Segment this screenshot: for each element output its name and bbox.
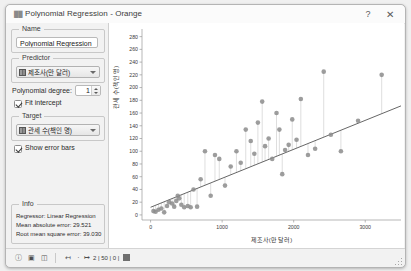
input-icon[interactable]: ↤ [63,253,72,263]
help-button[interactable]: ? [361,8,375,21]
svg-text:280: 280 [129,34,138,40]
close-button[interactable]: ✕ [383,8,397,21]
info-box: Info Regressor: Linear Regression Mean a… [11,204,105,244]
x-axis-title: 제조사(만 달러) [202,235,342,244]
svg-text:220: 220 [129,72,138,78]
svg-text:60: 60 [132,174,138,180]
control-panel: Name Polynomial Regression Predictor 제조사… [6,23,109,248]
screenshot-root: ██ Polynomial Regression - Orange ? ✕ Na… [0,0,411,271]
orange-widget-icon: ██ [14,10,22,18]
status-square-icon [123,254,130,261]
target-box: Target 관세 수(책인 명) [11,116,105,141]
predictor-box-label: Predictor [19,54,53,61]
svg-text:80: 80 [132,161,138,167]
name-box: Name Polynomial Regression [11,29,105,53]
status-bar: ⓘ ▣ ◫ ↤ · ↦ 2 | 50 | 0 | [6,248,405,267]
info-box-label: Info [19,200,37,207]
target-combo[interactable]: 관세 수(책인 명) [16,124,100,136]
output-icon[interactable]: ↦ [82,253,91,263]
svg-text:260: 260 [129,46,138,52]
stepper-down-icon [94,92,98,94]
svg-text:100: 100 [129,148,138,154]
name-box-label: Name [19,25,44,32]
stepper-up-icon [94,88,98,90]
divider [55,253,56,263]
plot-canvas: 0204060801001201401601802002202402602800… [109,23,404,248]
svg-text:20: 20 [132,199,138,205]
resize-grip[interactable] [393,256,402,265]
chevron-down-icon [90,129,96,132]
status-counts: 2 | 50 | 0 | [93,253,119,263]
scatter-plot[interactable]: 관세 수(책인 명) 02040608010012014016018020022… [109,23,404,248]
svg-text:0: 0 [135,212,138,218]
checkbox-icon [14,145,22,153]
fit-intercept-label: Fit intercept [25,99,62,106]
svg-text:200: 200 [129,84,138,90]
predictor-value: 제조사(만 달러) [28,68,88,78]
svg-text:180: 180 [129,97,138,103]
target-value: 관세 수(책인 명) [28,126,88,136]
svg-text:2000: 2000 [288,224,300,230]
title-bar: ██ Polynomial Regression - Orange ? ✕ [6,5,405,24]
name-input[interactable]: Polynomial Regression [16,37,98,48]
checkbox-icon [14,100,22,108]
variable-type-icon [19,127,26,134]
info-rmse: Root mean square error: 39.030 [16,231,101,237]
svg-text:1000: 1000 [216,224,228,230]
svg-text:3000: 3000 [359,224,371,230]
svg-text:40: 40 [132,186,138,192]
predictor-combo[interactable]: 제조사(만 달러) [16,66,100,78]
info-regressor: Regressor: Linear Regression [16,213,96,219]
polynomial-degree-stepper[interactable]: 1 [75,85,101,96]
image-icon[interactable]: ▣ [27,253,36,263]
stepper-buttons[interactable] [91,86,100,95]
window-title: Polynomial Regression - Orange [25,9,142,18]
degree-label: Polynomial degree: [12,87,72,94]
svg-text:140: 140 [129,123,138,129]
info-mae: Mean absolute error: 29.521 [16,222,91,228]
show-error-bars-label: Show error bars [25,144,75,151]
degree-value: 1 [76,86,92,96]
chevron-down-icon [90,71,96,74]
svg-text:120: 120 [129,135,138,141]
copy-icon[interactable]: ◫ [40,253,49,263]
target-box-label: Target [19,112,44,119]
svg-text:160: 160 [129,110,138,116]
info-icon[interactable]: ⓘ [14,253,23,263]
variable-type-icon [19,69,26,76]
polynomial-regression-window: ██ Polynomial Regression - Orange ? ✕ Na… [5,4,406,268]
predictor-box: Predictor 제조사(만 달러) [11,58,105,83]
svg-text:240: 240 [129,59,138,65]
svg-text:0: 0 [149,224,152,230]
